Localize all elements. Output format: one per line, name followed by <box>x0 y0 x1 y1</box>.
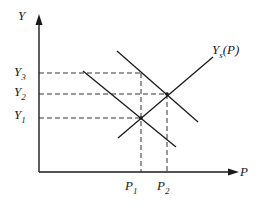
x-axis <box>39 169 239 176</box>
y2-label: Y2 <box>14 84 26 102</box>
x-axis-label: P <box>239 164 248 179</box>
y-axis-label: Y <box>18 8 27 23</box>
supply-curve-label: Ys(P) <box>212 42 239 60</box>
y-axis <box>36 14 43 172</box>
y3-label: Y3 <box>14 64 26 82</box>
p2-label: P2 <box>156 178 170 196</box>
demand-curve-upper <box>117 51 198 122</box>
supply-curve <box>118 57 213 138</box>
equilibrium-point-1 <box>139 116 143 120</box>
y-axis-arrow-icon <box>36 14 43 25</box>
equilibrium-point-2 <box>165 92 169 96</box>
demand-curve-lower <box>83 71 176 147</box>
p1-label: P1 <box>124 178 137 196</box>
x-axis-arrow-icon <box>228 169 239 176</box>
y1-label: Y1 <box>14 107 26 125</box>
supply-demand-diagram: Y P Y3 Y2 Y1 P1 P2 Ys(P) <box>0 0 259 209</box>
